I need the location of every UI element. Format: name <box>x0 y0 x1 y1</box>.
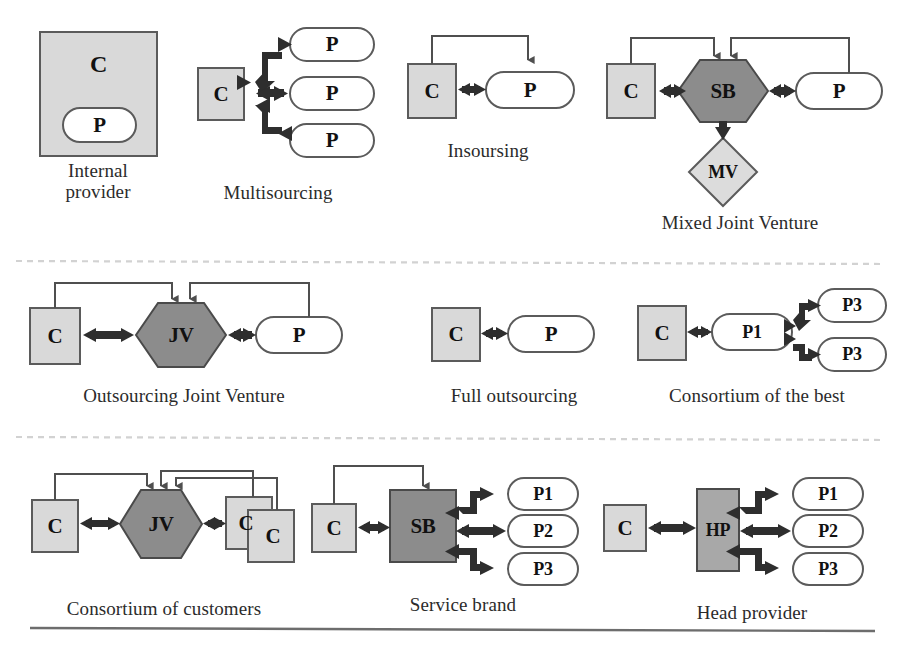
arrow-sb-sb-p2 <box>456 524 506 538</box>
arrow-ojv-c-jv <box>83 328 134 342</box>
diagram-shapes <box>0 0 898 653</box>
node-sb-c <box>312 504 356 552</box>
node-cc-c1 <box>32 500 78 552</box>
node-is-p <box>486 72 574 108</box>
model-full-outsourcing <box>432 308 594 361</box>
caption-full-outsourcing: Full outsourcing <box>410 385 618 406</box>
caption-head-provider: Head provider <box>628 602 876 623</box>
node-ojv-jv <box>136 303 226 367</box>
node-fo-c <box>432 308 480 361</box>
node-cb-p3a <box>818 289 886 322</box>
node-hp-hp <box>697 489 739 571</box>
caption-mixed-joint-venture: Mixed Joint Venture <box>608 212 872 233</box>
arrow-hp-c-hp <box>648 521 696 535</box>
arrow-is-c-p <box>458 83 486 96</box>
node-ms-p3 <box>290 124 374 157</box>
node-mjv-sb <box>678 60 768 122</box>
node-ojv-p <box>256 317 342 353</box>
model-multisourcing <box>198 28 374 157</box>
node-cb-p1 <box>712 314 792 350</box>
node-is-c <box>408 64 456 118</box>
model-head-provider <box>604 478 863 585</box>
loop-cc-c1-jv <box>55 474 147 500</box>
caption-internal-provider: Internal provider <box>28 160 168 203</box>
arrow-ms-c-p3 <box>255 98 292 141</box>
node-cb-c <box>638 306 686 360</box>
node-sb-p1 <box>508 478 578 510</box>
caption-consortium-of-customers: Consortium of customers <box>8 598 320 619</box>
node-cc-c3 <box>248 510 294 562</box>
model-mixed-joint-venture <box>607 38 882 206</box>
node-sb-p2 <box>508 515 578 547</box>
node-cb-p3b <box>818 338 886 371</box>
model-insoursing <box>408 36 574 118</box>
node-ms-p2 <box>290 77 374 110</box>
caption-service-brand: Service brand <box>348 594 578 615</box>
row-separator-1 <box>16 261 884 264</box>
arrow-hp-hp-p2 <box>740 524 791 538</box>
caption-insoursing: Insoursing <box>400 140 576 161</box>
arrow-mjv-sb-p <box>769 84 796 98</box>
arrow-sb-c-sb <box>358 521 390 534</box>
loop-is-c-p <box>432 36 528 64</box>
arrow-cb-c-p1 <box>687 326 712 338</box>
arrow-mjv-sb-mv <box>715 121 731 140</box>
node-ms-p1 <box>290 28 374 61</box>
node-ip-p <box>63 108 136 142</box>
loop-ojv-c-jv <box>55 283 172 308</box>
node-fo-p <box>508 316 594 352</box>
model-internal-provider <box>40 32 157 156</box>
bottom-rule <box>30 628 875 631</box>
arrow-cc-jv-c2 <box>203 517 226 530</box>
node-mjv-p <box>796 73 882 109</box>
node-hp-c <box>604 505 646 551</box>
arrow-cb-p1-p3b <box>784 332 821 361</box>
caption-consortium-of-the-best: Consortium of the best <box>624 385 890 406</box>
model-service-brand <box>312 466 578 585</box>
model-outsourcing-joint-venture <box>30 283 342 367</box>
model-consortium-of-the-best <box>638 289 886 371</box>
diagram-canvas: C P C P P P C P C SB P MV C JV P C P C P… <box>0 0 898 653</box>
row-separator-2 <box>16 437 884 440</box>
node-hp-p1 <box>793 478 863 510</box>
node-sb-p3 <box>508 553 578 585</box>
node-cc-jv <box>120 490 202 558</box>
caption-multisourcing: Multisourcing <box>178 182 378 203</box>
node-mjv-c <box>607 64 655 118</box>
model-consortium-of-customers <box>32 471 294 562</box>
arrow-ojv-jv-p <box>228 328 256 342</box>
arrow-ms-c-p1 <box>237 37 292 93</box>
node-hp-p3 <box>793 553 863 585</box>
arrow-cc-c1-jv <box>80 517 120 530</box>
arrow-cb-p1-p3a <box>784 299 821 333</box>
node-hp-p2 <box>793 515 863 547</box>
caption-outsourcing-joint-venture: Outsourcing Joint Venture <box>8 385 360 406</box>
arrow-fo-c-p <box>481 327 508 340</box>
node-ojv-c <box>30 308 80 364</box>
node-mjv-mv <box>689 138 757 206</box>
